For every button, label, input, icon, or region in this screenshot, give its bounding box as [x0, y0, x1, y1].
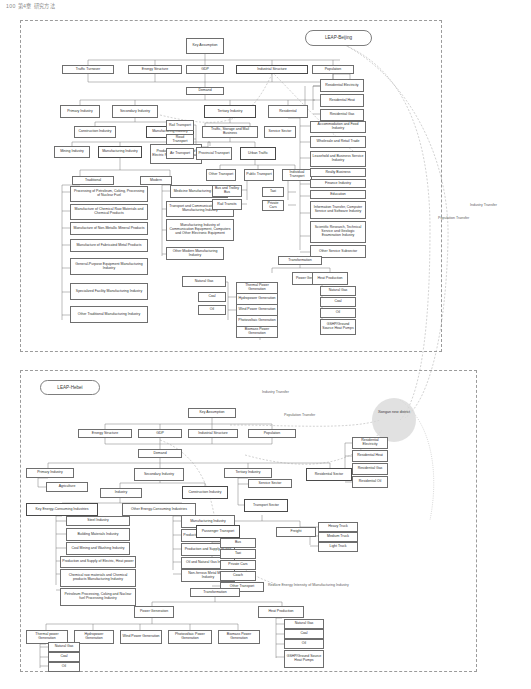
node-heat-3-beijing[interactable]: GSHP/Ground Source Heat Pumps: [320, 319, 356, 335]
node-pass-0-hebei[interactable]: Bus: [220, 538, 256, 548]
node-traffic-storage-mail[interactable]: Traffic, Storage and Mail Business: [202, 126, 258, 138]
node-energy-structure-hebei[interactable]: Energy Structure: [78, 429, 132, 438]
node-svc-5-beijing[interactable]: Education: [310, 190, 366, 199]
node-fuel-0-hebei[interactable]: Natural Gas: [48, 642, 80, 652]
node-pass-1-hebei[interactable]: Taxi: [220, 549, 256, 559]
node-taxi-beijing[interactable]: Taxi: [262, 187, 284, 197]
node-key-2-hebei[interactable]: Coal Mining and Washing Industry: [66, 542, 130, 555]
node-power-generation-hebei[interactable]: Power Generation: [134, 606, 174, 618]
node-trad-5[interactable]: Specialized Facility Manufacturing Indus…: [70, 283, 148, 300]
node-rail-transport-beijing[interactable]: Rail Transport: [166, 120, 194, 131]
node-industry-hebei[interactable]: Industry: [100, 488, 142, 498]
node-manufacturing-industry-2-beijing[interactable]: Manufacturing Industry: [98, 146, 142, 158]
node-agriculture-hebei[interactable]: Agriculture: [46, 482, 88, 492]
node-trad-2[interactable]: Manufacture of Non-Metallic Mineral Prod…: [70, 222, 148, 235]
node-air-transport-beijing[interactable]: Air Transport: [166, 148, 194, 159]
node-key-assumption-hebei[interactable]: Key Assumption: [188, 408, 236, 418]
node-transformation-hebei[interactable]: Transformation: [190, 588, 240, 597]
node-res-3-hebei[interactable]: Residential Oil: [352, 476, 388, 488]
node-demand-hebei[interactable]: Demand: [138, 449, 182, 458]
node-svc-4-beijing[interactable]: Finance Industry: [310, 179, 366, 188]
node-pow-1-hebei[interactable]: Hydropower Generation: [74, 630, 114, 644]
node-fuel-oil-beijing[interactable]: Oil: [198, 305, 226, 315]
node-heat-1-hebei[interactable]: Coal: [284, 629, 324, 639]
node-svc-3-beijing[interactable]: Realty Business: [310, 168, 366, 177]
node-transformation-beijing[interactable]: Transformation: [278, 256, 322, 265]
node-industrial-structure-hebei[interactable]: Industrial Structure: [188, 429, 238, 438]
node-residential-beijing[interactable]: Residential: [268, 105, 308, 118]
node-demand-beijing[interactable]: Demand: [186, 87, 224, 95]
node-svc-0-beijing[interactable]: Accommodation and Food Industry: [310, 121, 366, 133]
node-key-1-hebei[interactable]: Building Materials Industry: [66, 528, 130, 541]
node-population-beijing[interactable]: Population: [312, 65, 354, 74]
node-gdp-beijing[interactable]: GDP: [186, 65, 224, 74]
node-primary-industry-hebei[interactable]: Primary Industry: [26, 468, 74, 478]
node-bus-trolley-beijing[interactable]: Bus and Trolley Bus: [212, 185, 242, 197]
node-service-sector-beijing[interactable]: Service Sector: [264, 126, 296, 138]
node-key-4-hebei[interactable]: Chemical raw materials and Chemical prod…: [60, 569, 136, 587]
node-other-transport-beijing[interactable]: Other Transport: [206, 169, 236, 181]
node-key-3-hebei[interactable]: Production and Supply of Electric, Heat …: [60, 556, 136, 568]
node-public-transport-beijing[interactable]: Public Transport: [244, 169, 274, 181]
node-key-assumption-beijing[interactable]: Key Assumption: [186, 38, 224, 54]
node-freight-hebei[interactable]: Freight: [276, 527, 316, 537]
node-svc-7-beijing[interactable]: Scientific Research, Technical Service a…: [310, 221, 366, 243]
node-urban-traffic[interactable]: Urban Traffic: [240, 147, 276, 160]
node-modern-3[interactable]: Other Modern Manufacturing Industry: [166, 247, 224, 260]
node-svc-6-beijing[interactable]: Information Transfer, Computer Service a…: [310, 201, 366, 219]
node-individual-transport-beijing[interactable]: Individual Transport: [282, 169, 312, 181]
node-svc-2-beijing[interactable]: Leasehold and Business Service Industry: [310, 151, 366, 167]
node-pow-4-beijing[interactable]: Biomass Power Generation: [236, 326, 278, 338]
node-key-energy-consuming-hebei[interactable]: Key Energy-Consuming Industries: [26, 503, 98, 516]
node-fuel-1-hebei[interactable]: Coal: [48, 652, 80, 662]
node-key-0-hebei[interactable]: Steel Industry: [66, 516, 130, 526]
node-secondary-industry-hebei[interactable]: Secondary Industry: [134, 468, 184, 481]
node-traffic-turnover[interactable]: Traffic Turnover: [62, 65, 114, 74]
node-road-transport-beijing[interactable]: Road Transport: [166, 134, 194, 145]
node-trad-6[interactable]: Other Traditional Manufacturing Industry: [70, 306, 148, 323]
node-heat-production-beijing[interactable]: Heat Production: [312, 272, 348, 285]
node-pass-2-hebei[interactable]: Private Cars: [220, 560, 256, 570]
node-res-0-hebei[interactable]: Residential Electricity: [352, 437, 388, 449]
node-fuel-2-hebei[interactable]: Oil: [48, 662, 80, 672]
node-population-hebei[interactable]: Population: [248, 429, 296, 438]
node-heat-production-hebei[interactable]: Heat Production: [258, 606, 304, 618]
node-trad-1[interactable]: Manufacture of Chemical Raw Materials an…: [70, 204, 148, 220]
node-gdp-hebei[interactable]: GDP: [138, 429, 182, 438]
node-transport-sector-hebei[interactable]: Transport Sector: [244, 499, 288, 512]
node-svc-1-beijing[interactable]: Wholesale and Retail Trade: [310, 136, 366, 148]
node-construction-industry-hebei[interactable]: Construction Industry: [182, 486, 228, 499]
node-res-1-beijing[interactable]: Residential Heat: [320, 94, 364, 107]
node-res-0-beijing[interactable]: Residential Electricity: [320, 79, 364, 92]
node-modern-2[interactable]: Manufacturing Industry of Communication …: [166, 219, 234, 241]
node-construction-industry-beijing[interactable]: Construction Industry: [74, 126, 116, 138]
node-traditional-beijing[interactable]: Traditional: [72, 176, 114, 185]
node-energy-structure-beijing[interactable]: Energy Structure: [128, 65, 182, 74]
node-service-sector-hebei[interactable]: Service Sector: [248, 479, 292, 488]
node-res-2-beijing[interactable]: Residential Gas: [320, 109, 364, 121]
node-trad-3[interactable]: Manufacture of Fabricated Metal Products: [70, 239, 148, 252]
node-heat-1-beijing[interactable]: Coal: [320, 297, 356, 307]
node-tertiary-industry-hebei[interactable]: Tertiary Industry: [224, 468, 272, 478]
node-pow-3-hebei[interactable]: Photovoltaic Power Generation: [168, 630, 212, 644]
node-mining-industry-beijing[interactable]: Mining Industry: [54, 146, 90, 158]
node-provincial-transport[interactable]: Provincial Transport: [196, 147, 232, 160]
node-heat-2-hebei[interactable]: Oil: [284, 639, 324, 649]
node-pass-3-hebei[interactable]: Coach: [220, 571, 256, 581]
node-heat-0-hebei[interactable]: Natural Gas: [284, 619, 324, 629]
node-fuel-coal-beijing[interactable]: Coal: [198, 292, 226, 302]
node-key-5-hebei[interactable]: Petroleum Processing, Coking and Nuclear…: [60, 588, 136, 606]
node-res-1-hebei[interactable]: Residential Heat: [352, 450, 388, 462]
node-freight-0-hebei[interactable]: Heavy Truck: [318, 522, 358, 532]
node-passenger-transport-hebei[interactable]: Passenger Transport: [196, 525, 240, 538]
node-freight-2-hebei[interactable]: Light Truck: [318, 542, 358, 552]
node-tertiary-industry-beijing[interactable]: Tertiary Industry: [204, 105, 256, 118]
node-rail-transits-beijing[interactable]: Rail Transits: [212, 199, 242, 210]
node-modern-beijing[interactable]: Modern: [140, 176, 172, 185]
node-pow-4-hebei[interactable]: Biomass Power Generation: [218, 630, 260, 644]
node-trad-4[interactable]: General-Purpose Equipment Manufacturing …: [70, 258, 148, 275]
node-heat-0-beijing[interactable]: Natural Gas: [320, 286, 356, 296]
node-secondary-industry-beijing[interactable]: Secondary Industry: [112, 105, 158, 118]
node-industrial-structure-beijing[interactable]: Industrial Structure: [236, 65, 308, 74]
node-private-cars-beijing[interactable]: Private Cars: [262, 200, 284, 211]
